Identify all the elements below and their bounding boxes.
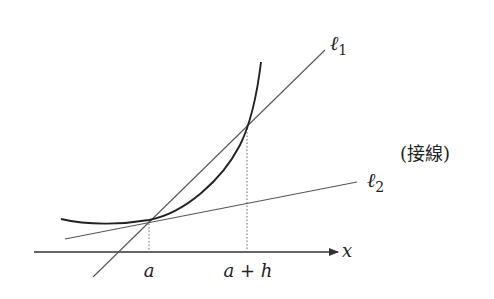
- tangent-line-l2: [65, 182, 357, 239]
- tick-label-a: a: [144, 260, 155, 281]
- tick-label-a-plus-h: a + h: [224, 260, 273, 281]
- tangent-annotation: (接線): [400, 143, 450, 164]
- secant-line-l1: [93, 50, 325, 277]
- diagram-canvas: ℓ1 ℓ2 (接線) x a a + h: [0, 0, 494, 299]
- label-l1: ℓ1: [330, 31, 347, 58]
- label-l2: ℓ2: [367, 168, 384, 195]
- function-curve: [61, 62, 261, 224]
- x-axis-label: x: [342, 240, 352, 261]
